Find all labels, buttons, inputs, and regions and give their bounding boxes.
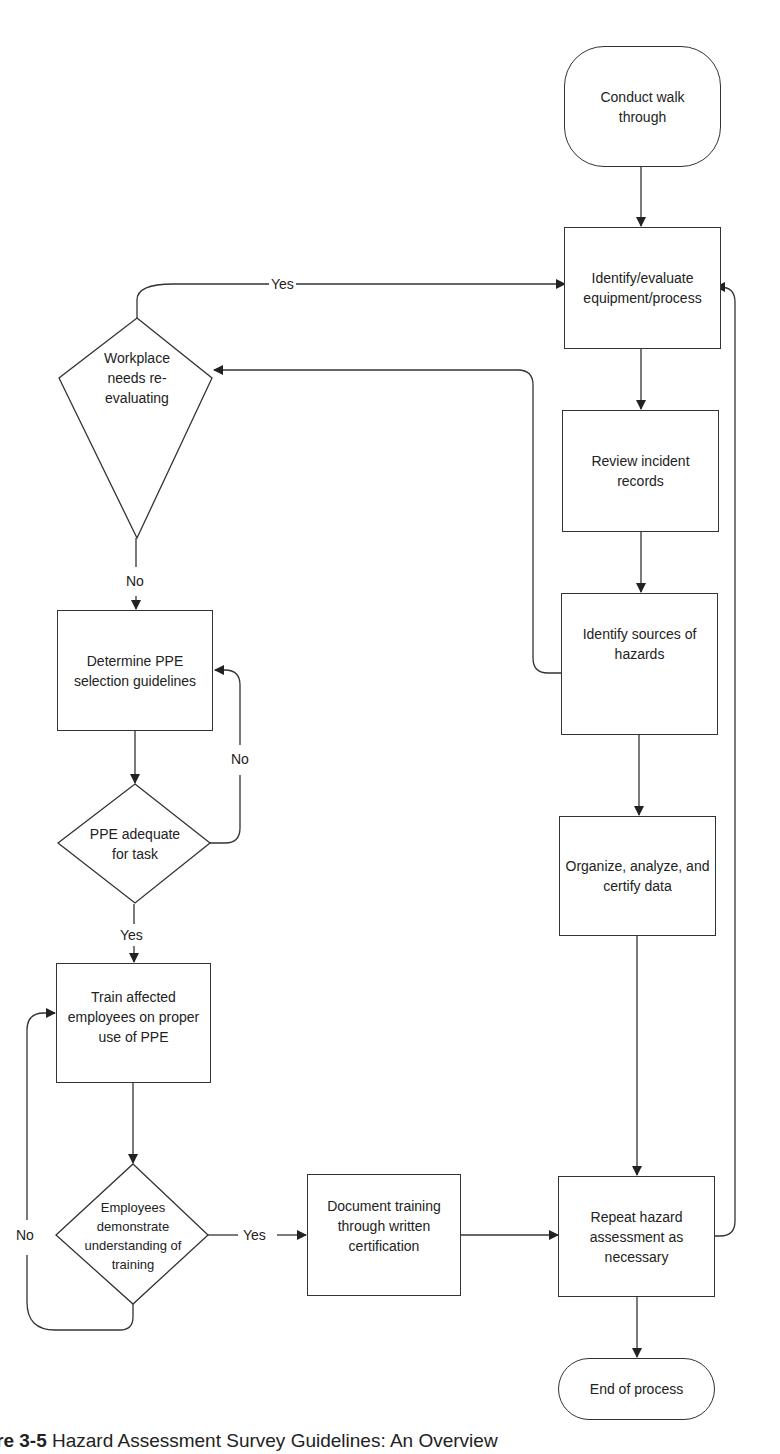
train-employees-label: Train affected employees on proper use o… bbox=[64, 987, 204, 1047]
train-employees-box: Train affected employees on proper use o… bbox=[56, 963, 211, 1083]
document-training-box: Document training through written certif… bbox=[307, 1174, 461, 1296]
identify-evaluate-label: Identify/evaluate equipment/process bbox=[568, 268, 718, 308]
ppe-adequate-label: PPE adequate for task bbox=[80, 824, 190, 864]
start-node: Conduct walk through bbox=[564, 46, 721, 167]
figure-title: Hazard Assessment Survey Guidelines: An … bbox=[52, 1430, 498, 1451]
identify-evaluate-box: Identify/evaluate equipment/process bbox=[564, 227, 721, 349]
organize-data-label: Organize, analyze, and certify data bbox=[563, 856, 713, 896]
edge-label-workplace-yes: Yes bbox=[269, 276, 296, 292]
figure-number: re 3-5 bbox=[0, 1430, 47, 1451]
identify-sources-box: Identify sources of hazards bbox=[561, 593, 718, 735]
employees-understand-decision-text: Employees demonstrate understanding of t… bbox=[78, 1196, 188, 1276]
workplace-decision-text: Workplace needs re-evaluating bbox=[90, 348, 184, 408]
edge-label-understand-yes: Yes bbox=[241, 1227, 268, 1243]
repeat-assessment-box: Repeat hazard assessment as necessary bbox=[558, 1176, 715, 1297]
figure-caption: re 3-5 Hazard Assessment Survey Guidelin… bbox=[0, 1430, 498, 1452]
identify-sources-label: Identify sources of hazards bbox=[570, 624, 710, 664]
edge-label-understand-no: No bbox=[14, 1227, 36, 1243]
workplace-decision-label: Workplace needs re-evaluating bbox=[90, 348, 184, 408]
edge-label-workplace-no: No bbox=[124, 573, 146, 589]
ppe-adequate-decision-text: PPE adequate for task bbox=[75, 822, 195, 866]
start-label: Conduct walk through bbox=[588, 87, 698, 127]
determine-ppe-box: Determine PPE selection guidelines bbox=[57, 610, 213, 731]
review-records-label: Review incident records bbox=[576, 451, 706, 491]
determine-ppe-label: Determine PPE selection guidelines bbox=[60, 651, 210, 691]
edge-label-ppe-no: No bbox=[229, 751, 251, 767]
employees-understand-label: Employees demonstrate understanding of t… bbox=[83, 1198, 183, 1274]
end-label: End of process bbox=[590, 1379, 683, 1399]
review-records-box: Review incident records bbox=[562, 410, 719, 532]
document-training-label: Document training through written certif… bbox=[314, 1196, 454, 1256]
edge-label-ppe-yes: Yes bbox=[118, 927, 145, 943]
repeat-assessment-label: Repeat hazard assessment as necessary bbox=[574, 1207, 699, 1267]
end-node: End of process bbox=[558, 1358, 715, 1420]
organize-data-box: Organize, analyze, and certify data bbox=[559, 816, 716, 936]
